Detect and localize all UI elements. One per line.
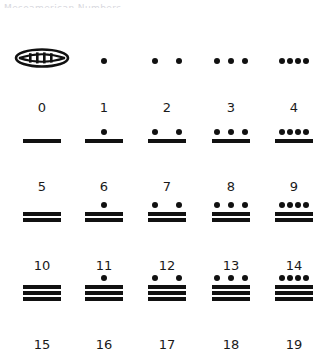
bar-icon xyxy=(23,291,61,295)
bar-icon xyxy=(275,291,313,295)
bar-icon xyxy=(85,285,123,289)
dot-icon xyxy=(303,202,309,208)
dot-icon xyxy=(295,275,301,281)
bar-icon xyxy=(85,218,123,222)
numeral-cell-17: 17 xyxy=(136,251,198,330)
bar-group-16 xyxy=(85,285,123,301)
numerals-grid: 012345678910111213141516171819 xyxy=(0,14,327,311)
dot-icon xyxy=(242,275,248,281)
dot-icon xyxy=(287,58,293,64)
numeral-symbol-18 xyxy=(200,261,262,301)
dot-icon xyxy=(101,202,107,208)
numeral-symbol-15 xyxy=(11,261,73,301)
header-line-1: Mesoamerican Numbers xyxy=(0,4,121,8)
bar-icon xyxy=(275,297,313,301)
numeral-cell-0: 0 xyxy=(11,14,73,93)
bar-icon xyxy=(23,218,61,222)
dot-group-6 xyxy=(73,126,135,135)
dot-icon xyxy=(279,202,285,208)
dot-icon xyxy=(101,58,107,64)
dot-icon xyxy=(214,58,220,64)
numeral-cell-14: 14 xyxy=(263,172,325,251)
numeral-symbol-17 xyxy=(136,261,198,301)
bar-icon xyxy=(212,139,250,143)
bar-icon xyxy=(23,139,61,143)
dot-icon xyxy=(287,129,293,135)
numeral-label-15: 15 xyxy=(11,337,73,352)
dot-icon xyxy=(176,202,182,208)
bar-group-15 xyxy=(23,285,61,301)
numeral-symbol-7 xyxy=(136,103,198,143)
dot-icon xyxy=(295,129,301,135)
dot-icon xyxy=(152,202,158,208)
dot-icon xyxy=(101,275,107,281)
numeral-label-16: 16 xyxy=(73,337,135,352)
numeral-symbol-3 xyxy=(200,24,262,64)
dot-group-18 xyxy=(200,272,262,281)
numeral-cell-2: 2 xyxy=(136,14,198,93)
numeral-cell-7: 7 xyxy=(136,93,198,172)
numeral-cell-5: 5 xyxy=(11,93,73,172)
bar-icon xyxy=(148,291,186,295)
dot-group-9 xyxy=(263,126,325,135)
dot-icon xyxy=(287,275,293,281)
dot-group-19 xyxy=(263,272,325,281)
bar-group-6 xyxy=(85,139,123,143)
numeral-label-18: 18 xyxy=(200,337,262,352)
dot-group-1 xyxy=(73,55,135,64)
numeral-symbol-13 xyxy=(200,182,262,222)
bar-icon xyxy=(275,139,313,143)
bar-icon xyxy=(148,139,186,143)
numeral-symbol-0 xyxy=(11,24,73,64)
bar-group-11 xyxy=(85,212,123,222)
numeral-cell-10: 10 xyxy=(11,172,73,251)
numeral-cell-11: 11 xyxy=(73,172,135,251)
bar-group-14 xyxy=(275,212,313,222)
numeral-symbol-9 xyxy=(263,103,325,143)
bar-icon xyxy=(275,218,313,222)
dot-icon xyxy=(228,202,234,208)
numeral-symbol-10 xyxy=(11,182,73,222)
dot-icon xyxy=(228,58,234,64)
dot-group-3 xyxy=(200,55,262,64)
dot-icon xyxy=(303,58,309,64)
bar-group-19 xyxy=(275,285,313,301)
numeral-symbol-8 xyxy=(200,103,262,143)
dot-group-12 xyxy=(136,199,198,208)
numeral-symbol-19 xyxy=(263,261,325,301)
numeral-symbol-12 xyxy=(136,182,198,222)
bar-group-5 xyxy=(23,139,61,143)
dot-group-13 xyxy=(200,199,262,208)
numeral-cell-1: 1 xyxy=(73,14,135,93)
dot-icon xyxy=(303,275,309,281)
numeral-cell-9: 9 xyxy=(263,93,325,172)
numeral-cell-8: 8 xyxy=(200,93,262,172)
numeral-symbol-11 xyxy=(73,182,135,222)
bar-icon xyxy=(148,297,186,301)
bar-icon xyxy=(85,297,123,301)
bar-icon xyxy=(85,291,123,295)
dot-icon xyxy=(287,202,293,208)
numeral-cell-19: 19 xyxy=(263,251,325,330)
bar-group-8 xyxy=(212,139,250,143)
bar-icon xyxy=(148,212,186,216)
bar-group-17 xyxy=(148,285,186,301)
dot-group-8 xyxy=(200,126,262,135)
numerals-row: 01234 xyxy=(0,14,327,93)
bar-icon xyxy=(212,285,250,289)
bar-group-7 xyxy=(148,139,186,143)
numerals-row: 1011121314 xyxy=(0,172,327,251)
numeral-cell-15: 15 xyxy=(11,251,73,330)
numeral-symbol-14 xyxy=(263,182,325,222)
numeral-cell-18: 18 xyxy=(200,251,262,330)
bar-icon xyxy=(212,291,250,295)
bar-icon xyxy=(23,212,61,216)
bar-icon xyxy=(23,285,61,289)
numeral-symbol-2 xyxy=(136,24,198,64)
clipped-header-text: Mesoamerican Numbers xyxy=(0,0,327,8)
numeral-cell-6: 6 xyxy=(73,93,135,172)
dot-icon xyxy=(242,129,248,135)
numeral-cell-4: 4 xyxy=(263,14,325,93)
dot-icon xyxy=(279,129,285,135)
